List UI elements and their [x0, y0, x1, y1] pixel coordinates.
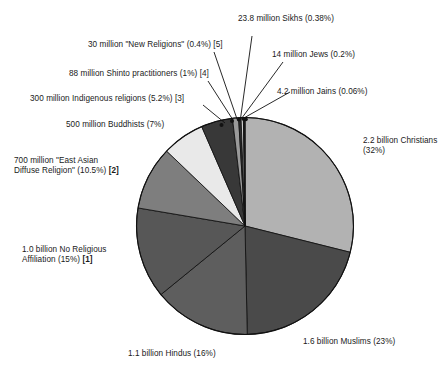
- label-muslims-text: 1.6 billion Muslims (23%): [303, 337, 395, 346]
- label-no-religious-footnote: [1]: [82, 255, 92, 264]
- label-shinto: 88 million Shinto practitioners (1%) [4]: [69, 69, 209, 79]
- label-christians-line2: (32%): [363, 146, 385, 155]
- label-east-asian-line1: 700 million "East Asian: [14, 156, 98, 165]
- label-hindus: 1.1 billion Hindus (16%): [128, 349, 216, 359]
- pie-chart-svg: [0, 0, 446, 372]
- label-no-religious-line2: Affiliation (15%): [22, 255, 80, 264]
- label-sikhs-text: 23.8 million Sikhs (0.38%): [238, 14, 334, 23]
- pie-chart-figure: 23.8 million Sikhs (0.38%) 14 million Je…: [0, 0, 446, 372]
- label-hindus-text: 1.1 billion Hindus (16%): [128, 349, 216, 358]
- label-jains-text: 4.2 million Jains (0.06%): [277, 87, 367, 96]
- label-buddhists: 500 million Buddhists (7%): [66, 120, 164, 130]
- label-buddhists-text: 500 million Buddhists (7%): [66, 120, 164, 129]
- label-jews-text: 14 million Jews (0.2%): [272, 50, 355, 59]
- label-christians: 2.2 billion Christians (32%): [363, 136, 446, 157]
- label-sikhs: 23.8 million Sikhs (0.38%): [238, 14, 334, 24]
- label-christians-line1: 2.2 billion Christians: [363, 136, 437, 145]
- label-jains: 4.2 million Jains (0.06%): [277, 87, 367, 97]
- label-indigenous: 300 million Indigenous religions (5.2%) …: [30, 94, 184, 104]
- label-east-asian-line2: Diffuse Religion" (10.5%): [14, 166, 106, 175]
- label-east-asian-footnote: [2]: [109, 166, 119, 175]
- leader-dot-shinto: [230, 119, 234, 123]
- leader-dot-jews: [241, 117, 245, 121]
- leader-line-shinto: [208, 81, 233, 120]
- label-east-asian: 700 million "East Asian Diffuse Religion…: [14, 156, 154, 177]
- label-new-religions-text: 30 million "New Religions" (0.4%) [5]: [88, 40, 223, 49]
- label-indigenous-text: 300 million Indigenous religions (5.2%) …: [30, 94, 184, 103]
- leader-dot-new-religions: [237, 118, 241, 122]
- label-new-religions: 30 million "New Religions" (0.4%) [5]: [88, 40, 223, 50]
- label-jews: 14 million Jews (0.2%): [272, 50, 355, 60]
- label-no-religious-affiliation: 1.0 billion No Religious Affiliation (15…: [22, 245, 162, 266]
- label-no-religious-line1: 1.0 billion No Religious: [22, 245, 107, 254]
- label-muslims: 1.6 billion Muslims (23%): [303, 337, 395, 347]
- leader-line-indigenous: [203, 105, 225, 123]
- label-shinto-text: 88 million Shinto practitioners (1%) [4]: [69, 69, 209, 78]
- pie-slices-group: [136, 117, 353, 334]
- leader-dot-indigenous: [220, 123, 224, 127]
